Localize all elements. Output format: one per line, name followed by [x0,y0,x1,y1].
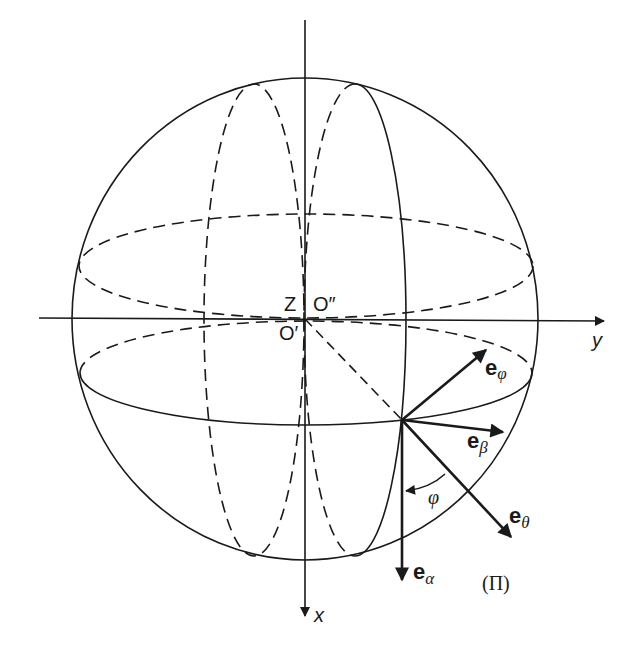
label-e-beta: eβ [467,428,488,457]
angle-phi-arc [406,474,445,491]
vector-e-theta [402,420,511,537]
label-e-alpha: eα [413,559,435,588]
e-beta-base: e [467,428,479,453]
e-beta-sub: β [478,438,488,457]
label-plane: (Π) [482,572,510,595]
e-alpha-sub: α [425,569,435,588]
e-phi-sub: φ [497,364,506,383]
label-o-double-prime: O″ [313,293,336,315]
e-alpha-base: e [413,559,425,584]
sphere-diagram: Z O″ O′ y x eφ eβ eθ eα φ (Π) [0,0,641,659]
label-e-phi: eφ [485,355,507,383]
lower-latitude-back [80,321,532,373]
e-theta-base: e [509,503,521,528]
vector-e-phi [402,350,486,420]
label-x-axis: x [313,604,325,626]
label-z: Z [284,293,296,315]
label-y-axis: y [590,329,603,351]
vector-e-beta [402,420,503,432]
radius-line [305,319,402,420]
e-theta-sub: θ [521,513,529,532]
label-angle-phi: φ [428,486,439,509]
label-o-prime: O′ [279,322,299,344]
e-phi-base: e [485,355,497,380]
label-e-theta: eθ [509,503,530,532]
